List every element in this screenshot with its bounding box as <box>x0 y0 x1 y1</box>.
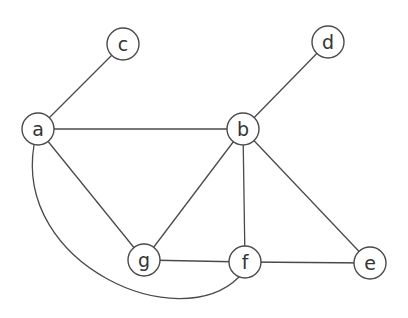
edge-b-d <box>243 42 328 129</box>
node-e: e <box>354 247 386 279</box>
node-g: g <box>128 244 160 276</box>
node-label: e <box>364 252 376 274</box>
node-f: f <box>229 246 261 278</box>
edge-b-f <box>243 129 245 262</box>
edge-f-e <box>245 262 370 263</box>
node-label: c <box>118 33 128 55</box>
node-c: c <box>107 28 139 60</box>
graph-diagram: abcdefg <box>0 0 408 318</box>
edges <box>32 42 370 299</box>
edge-b-g <box>144 129 243 260</box>
node-label: a <box>32 118 44 140</box>
node-b: b <box>227 113 259 145</box>
edge-a-c <box>38 44 123 129</box>
node-a: a <box>22 113 54 145</box>
edge-a-g <box>38 129 144 260</box>
nodes: abcdefg <box>22 26 386 279</box>
node-d: d <box>312 26 344 58</box>
edge-b-e <box>243 129 370 263</box>
edge-a-f <box>32 145 239 299</box>
node-label: g <box>138 249 150 271</box>
node-label: d <box>322 31 334 53</box>
node-label: b <box>237 118 249 140</box>
